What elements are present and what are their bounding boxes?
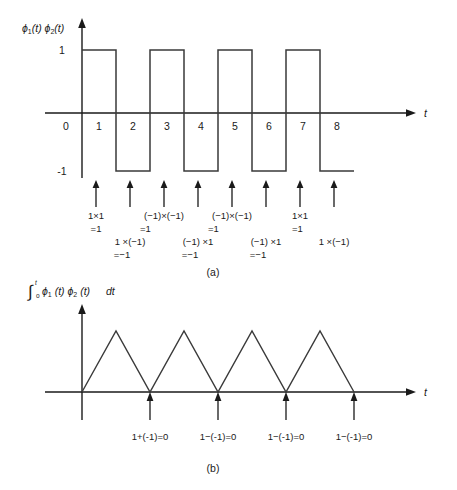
panel-a-arrowhead-5 (229, 180, 236, 188)
panel-a-arrowhead-8 (331, 180, 338, 188)
panel-b-arrowhead-2 (215, 392, 222, 401)
panel-a: ϕ1(t) ϕ2(t) t 1 -1 0 1 2 3 4 5 6 7 8 (22, 18, 428, 278)
integral-lower-limit: o (36, 292, 40, 299)
panel-a-y-axis-arrowhead (78, 18, 86, 28)
panel-a-annotation-top-4-line2: =1 (292, 223, 303, 234)
panel-a-arrowhead-7 (297, 180, 304, 188)
panel-a-caption: (a) (207, 266, 220, 278)
panel-b-x-axis-label: t (424, 386, 428, 398)
panel-b-arrow-label-1: 1+(-1)=0 (132, 431, 168, 442)
integral-symbol: ∫ (27, 282, 34, 301)
panel-a-arrowhead-group (93, 180, 338, 188)
figure-container: ϕ1(t) ϕ2(t) t 1 -1 0 1 2 3 4 5 6 7 8 (0, 0, 457, 490)
panel-a-x-axis-arrowhead (406, 109, 416, 117)
panel-b-x-axis-arrowhead (406, 388, 416, 396)
panel-b-arrowhead-3 (283, 392, 290, 401)
panel-a-level-label-neg1: -1 (57, 165, 66, 177)
integral-upper-limit: t (35, 279, 38, 286)
panel-a-square-waveform (82, 50, 354, 171)
panel-a-annotation-bottom-2-line2: =−1 (182, 249, 198, 260)
panel-a-tick-label-5: 5 (232, 120, 238, 132)
panel-a-arrowhead-1 (93, 180, 100, 188)
panel-a-annotation-bottom-2-line1: (−1) ×1 (183, 236, 214, 247)
panel-a-arrowhead-6 (263, 180, 270, 188)
panel-a-annotation-bottom-1-line1: 1 ×(−1) (115, 236, 146, 247)
panel-a-x-axis-label: t (424, 107, 428, 119)
panel-a-tick-label-0: 0 (63, 120, 69, 132)
panel-a-annotation-top-1-line2: =1 (91, 223, 102, 234)
panel-a-y-axis-label: ϕ1(t) ϕ2(t) (22, 22, 64, 35)
panel-a-arrowhead-2 (127, 180, 134, 188)
panel-a-tick-label-4: 4 (198, 120, 204, 132)
panel-a-annotation-top-1-line1: 1×1 (88, 210, 104, 221)
panel-a-annotation-bottom-3-line2: =−1 (250, 249, 266, 260)
panel-a-annotation-top-2-line1: (−1)×(−1) (144, 210, 184, 221)
panel-a-arrowhead-3 (161, 180, 168, 188)
panel-a-annotation-bottom-3-line1: (−1) ×1 (251, 236, 282, 247)
panel-b-arrowhead-group (147, 392, 358, 401)
panel-b-triangle-waveform (82, 331, 354, 392)
panel-a-level-label-pos1: 1 (59, 44, 65, 56)
panel-a-tick-label-1: 1 (96, 120, 102, 132)
panel-b-arrow-group (150, 398, 354, 420)
panel-b-arrow-label-3: 1−(-1)=0 (268, 431, 304, 442)
panel-a-tick-label-6: 6 (266, 120, 272, 132)
integral-differential: dt (106, 285, 116, 297)
panel-a-annotation-top-3-line2: =1 (208, 223, 219, 234)
panel-b-y-axis-label: ∫ o t ϕ1 (t) ϕ2 (t) dt (27, 279, 116, 301)
panel-a-tick-label-2: 2 (130, 120, 136, 132)
figure-svg: ϕ1(t) ϕ2(t) t 1 -1 0 1 2 3 4 5 6 7 8 (0, 0, 457, 490)
panel-b-arrowhead-4 (351, 392, 358, 401)
panel-b: ∫ o t ϕ1 (t) ϕ2 (t) dt t (27, 279, 428, 474)
panel-a-annotation-bottom-1-line2: =−1 (114, 249, 130, 260)
panel-a-arrow-group (96, 185, 334, 207)
panel-a-annotation-top-4-line1: 1×1 (292, 210, 308, 221)
panel-b-y-axis-arrowhead (78, 304, 86, 314)
panel-a-annotation-top-2-line2: =1 (140, 223, 151, 234)
panel-b-arrow-label-4: 1−(-1)=0 (336, 431, 372, 442)
panel-b-arrow-label-2: 1−(-1)=0 (200, 431, 236, 442)
panel-a-annotation-top-3-line1: (−1)×(−1) (212, 210, 252, 221)
integrand-label: ϕ1 (t) ϕ2 (t) (42, 285, 90, 298)
panel-a-arrowhead-4 (195, 180, 202, 188)
panel-a-tick-label-7: 7 (300, 120, 306, 132)
panel-a-annotation-bottom-4-line1: 1 ×(−1) (319, 236, 350, 247)
panel-b-arrowhead-1 (147, 392, 154, 401)
panel-a-tick-label-8: 8 (334, 120, 340, 132)
panel-a-tick-label-3: 3 (164, 120, 170, 132)
panel-b-caption: (b) (207, 462, 220, 474)
